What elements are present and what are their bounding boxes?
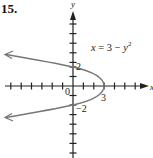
y-axis bbox=[70, 11, 77, 158]
y-axis-label: y bbox=[71, 0, 75, 9]
equation-mid: = 3 − bbox=[96, 42, 124, 53]
x-tick-label-3: 3 bbox=[101, 93, 106, 103]
y-tick-label-neg2: −2 bbox=[76, 104, 87, 114]
origin-label: 0 bbox=[65, 87, 70, 97]
y-axis-arrow-icon bbox=[70, 11, 76, 20]
equation-label: x = 3 − y2 bbox=[91, 42, 131, 53]
equation-exponent: 2 bbox=[128, 40, 132, 48]
x-axis-label: x bbox=[150, 83, 153, 92]
y-tick-label-2: 2 bbox=[76, 62, 81, 72]
parabola-graph bbox=[0, 0, 153, 158]
x-axis bbox=[5, 83, 149, 90]
x-axis-arrow-icon bbox=[140, 83, 149, 89]
